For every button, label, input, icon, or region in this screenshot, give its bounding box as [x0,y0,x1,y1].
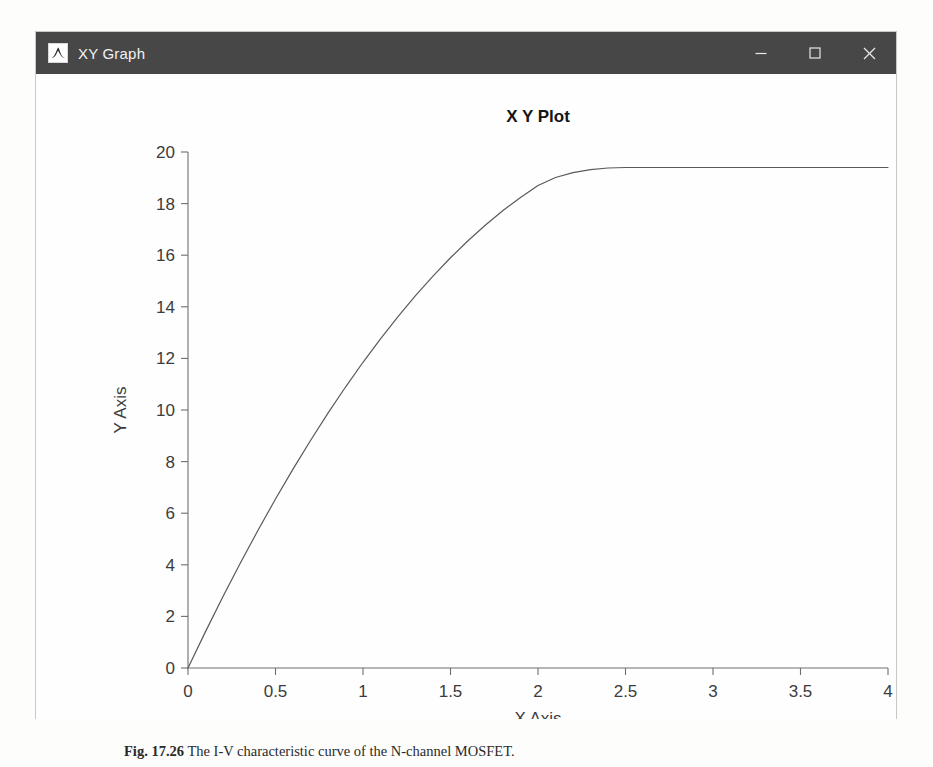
x-tick-label: 0.5 [264,682,288,701]
y-tick-label: 12 [156,349,175,368]
x-tick-label: 3 [708,682,717,701]
y-tick-label: 4 [166,556,175,575]
y-axis-label: Y Axis [111,387,130,434]
figure-caption: Fig. 17.26 The I-V characteristic curve … [124,742,824,767]
window-title: XY Graph [78,45,145,62]
xy-plot[interactable]: X Y Plot0246810121416182000.511.522.533.… [36,74,896,719]
close-button[interactable] [842,32,896,74]
x-tick-label: 1 [358,682,367,701]
y-tick-label: 14 [156,298,175,317]
y-tick-label: 20 [156,143,175,162]
y-tick-label: 18 [156,195,175,214]
minimize-button[interactable] [734,32,788,74]
maximize-button[interactable] [788,32,842,74]
y-tick-label: 0 [166,659,175,678]
plot-title: X Y Plot [506,107,570,126]
y-tick-label: 10 [156,401,175,420]
xy-graph-window: XY Graph X Y Plot02468101214161 [35,31,897,719]
y-tick-label: 8 [166,453,175,472]
x-tick-label: 0 [183,682,192,701]
axis-lines [188,152,888,668]
x-tick-label: 2.5 [614,682,638,701]
window-controls [734,32,896,74]
matlab-membrane-icon [48,43,68,63]
data-curve [188,167,888,668]
x-tick-label: 3.5 [789,682,813,701]
window-titlebar[interactable]: XY Graph [36,32,896,74]
x-tick-label: 4 [883,682,892,701]
y-axis-ticks: 02468101214161820 [156,143,188,678]
x-axis-ticks: 00.511.522.533.54 [183,668,892,701]
x-axis-label: X Axis [514,709,561,719]
y-tick-label: 16 [156,246,175,265]
x-tick-label: 1.5 [439,682,463,701]
caption-figure-number: Fig. 17.26 [124,743,184,759]
caption-text: The I-V characteristic curve of the N-ch… [187,743,514,759]
x-tick-label: 2 [533,682,542,701]
y-tick-label: 6 [166,504,175,523]
y-tick-label: 2 [166,607,175,626]
figure-canvas: X Y Plot0246810121416182000.511.522.533.… [36,74,896,719]
